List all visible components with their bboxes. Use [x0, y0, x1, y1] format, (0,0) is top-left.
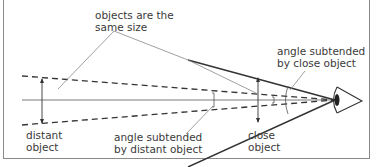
- label-line: object: [248, 141, 280, 153]
- label-line: distant: [26, 129, 62, 141]
- label-line: angle subtended: [114, 131, 202, 143]
- label-line: same size: [95, 21, 174, 33]
- label-line: close: [248, 129, 280, 141]
- label-same-size: objects are the same size: [95, 9, 174, 33]
- label-close-angle: angle subtended by close object: [277, 45, 365, 69]
- distant-ray-top: [22, 76, 335, 100]
- label-line: angle subtended: [277, 45, 365, 57]
- label-close-object: close object: [248, 129, 280, 153]
- label-line: objects are the: [95, 9, 174, 21]
- label-line: by close object: [277, 57, 365, 69]
- eye-icon: [334, 87, 363, 113]
- label-distant-object: distant object: [26, 129, 62, 153]
- label-distant-angle: angle subtended by distant object: [114, 131, 202, 155]
- label-line: by distant object: [114, 143, 202, 155]
- label-line: object: [26, 141, 62, 153]
